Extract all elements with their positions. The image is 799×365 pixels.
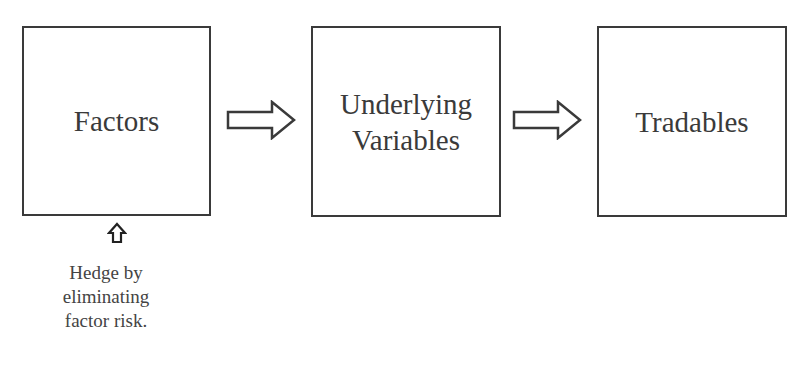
up-block-arrow-icon bbox=[107, 222, 127, 244]
tradables-box: Tradables bbox=[597, 26, 787, 217]
factors-label: Factors bbox=[74, 103, 159, 139]
right-block-arrow-icon bbox=[512, 100, 584, 140]
underlying-variables-label: Underlying Variables bbox=[340, 86, 472, 158]
hedge-caption: Hedge by eliminating factor risk. bbox=[36, 261, 176, 333]
right-block-arrow-icon bbox=[226, 100, 298, 140]
factors-box: Factors bbox=[22, 26, 211, 216]
tradables-label: Tradables bbox=[635, 104, 748, 140]
underlying-variables-box: Underlying Variables bbox=[311, 26, 501, 217]
